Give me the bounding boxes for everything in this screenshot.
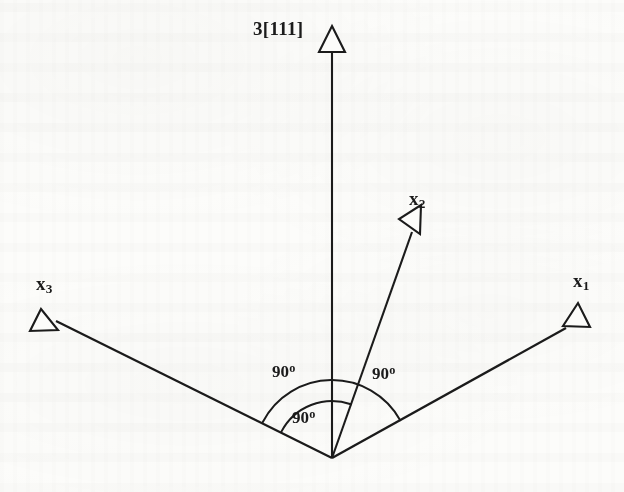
axis-x2-label-subscript: 2	[419, 196, 426, 211]
angle-label-right-value: 90	[372, 364, 389, 383]
triad-axis-arrowhead	[319, 26, 345, 52]
degree-symbol-icon: o	[309, 407, 315, 421]
axis-x1-label: x1	[573, 270, 590, 294]
axis-x1-arrowhead	[563, 303, 590, 327]
axis-x3-arrowhead	[30, 309, 58, 331]
angle-label-left: 90o	[272, 361, 295, 382]
axis-shafts	[56, 48, 566, 458]
axis-x2-label: x2	[409, 188, 426, 212]
axis-x3-shaft	[56, 321, 332, 458]
axis-x1-label-subscript: 1	[583, 278, 590, 293]
degree-symbol-icon: o	[389, 363, 395, 377]
axis-x3-label-base: x	[36, 273, 46, 294]
axis-x1-label-base: x	[573, 270, 583, 291]
triad-axis-label: 3[111]	[253, 18, 303, 40]
axis-x1-shaft	[332, 328, 566, 458]
angle-label-right: 90o	[372, 363, 395, 384]
degree-symbol-icon: o	[289, 361, 295, 375]
axis-x3-label-subscript: 3	[46, 281, 53, 296]
axis-x2-label-base: x	[409, 188, 419, 209]
axis-x2-shaft	[332, 232, 412, 458]
figure-root: 3[111] x1 x2 x3 90o 90o 90o	[0, 0, 624, 492]
angle-label-left-value: 90	[272, 362, 289, 381]
angle-label-inner: 90o	[292, 407, 315, 428]
axis-x3-label: x3	[36, 273, 53, 297]
angle-label-inner-value: 90	[292, 408, 309, 427]
axis-arrowheads	[30, 26, 590, 331]
